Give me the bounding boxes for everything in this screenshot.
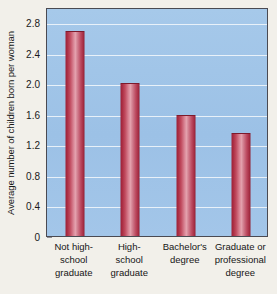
y-axis-tick-labels: 00.40.81.21.62.02.42.8: [6, 0, 40, 294]
bar-slot: [103, 9, 159, 236]
y-axis-tick-label: 2.8: [6, 18, 40, 29]
x-axis-category-label: Graduate orprofessionaldegree: [207, 240, 275, 279]
bar-chart-figure: Average number of children born per woma…: [0, 0, 277, 294]
bar: [232, 133, 251, 236]
bar: [121, 83, 140, 236]
bar: [176, 115, 195, 236]
bar: [65, 31, 84, 236]
y-axis-tick-label: 0: [6, 232, 40, 243]
y-axis-tick-label: 0.4: [6, 201, 40, 212]
plot-area: [46, 8, 268, 237]
y-axis-tick-label: 2.0: [6, 79, 40, 90]
y-axis-tick-label: 1.2: [6, 140, 40, 151]
y-axis-tick-label: 0.8: [6, 170, 40, 181]
bar-slot: [158, 9, 214, 236]
y-axis-tick-label: 1.6: [6, 109, 40, 120]
x-axis-category-labels: Not high-schoolgraduateHigh-schoolgradua…: [46, 240, 268, 294]
bar-slot: [47, 9, 103, 236]
bar-slot: [214, 9, 270, 236]
bar-series: [47, 9, 267, 236]
y-axis-tick-label: 2.4: [6, 48, 40, 59]
